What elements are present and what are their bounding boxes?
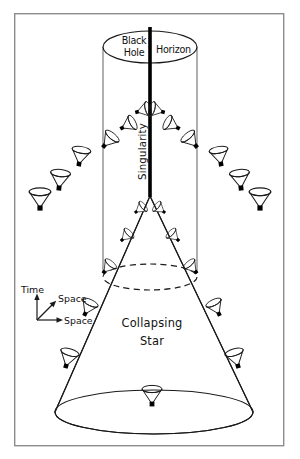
light-cone-rim xyxy=(29,188,51,196)
singularity-label: Singularity xyxy=(137,123,148,180)
space-diagonal-axis-label: Space xyxy=(58,293,87,304)
space-diagonal-axis-line xyxy=(37,303,54,320)
light-cone xyxy=(29,188,51,211)
light-cone xyxy=(69,145,91,168)
light-cone-apex-event xyxy=(56,185,61,190)
light-cone xyxy=(209,145,231,168)
light-cone-rim xyxy=(249,188,271,196)
light-cone-shell xyxy=(98,259,116,277)
light-cone-apex-event xyxy=(76,161,81,166)
light-cone-shell xyxy=(97,131,118,152)
light-cone-apex-event xyxy=(257,205,262,210)
collapsing-star-label-line2: Star xyxy=(140,334,164,348)
light-cone xyxy=(161,114,183,136)
light-cone xyxy=(205,296,228,319)
black-hole-label-line1: Black xyxy=(122,35,147,46)
collapsing-star-label-line1: Collapsing xyxy=(121,316,182,330)
light-cone xyxy=(96,128,121,153)
light-cone-shell xyxy=(181,131,202,152)
space-horizontal-arrowhead xyxy=(57,317,64,322)
light-cone xyxy=(117,114,139,136)
space-horizontal-axis-label: Space xyxy=(64,315,93,326)
light-cone-apex-event xyxy=(238,185,243,190)
time-axis-label: Time xyxy=(20,284,44,295)
light-cone xyxy=(249,188,271,211)
black-hole-label-line2: Hole xyxy=(124,47,145,58)
horizon-label: Horizon xyxy=(156,44,191,55)
figure-root: Black Hole Horizon Singularity Collapsin… xyxy=(0,0,300,459)
spacetime-diagram: Black Hole Horizon Singularity Collapsin… xyxy=(0,0,300,459)
light-cone-apex-event xyxy=(150,402,155,407)
light-cone xyxy=(49,168,71,191)
light-cone-apex-event xyxy=(218,161,223,166)
light-cone xyxy=(229,168,251,191)
light-cone-apex-event xyxy=(37,205,42,210)
light-cone xyxy=(179,128,204,153)
